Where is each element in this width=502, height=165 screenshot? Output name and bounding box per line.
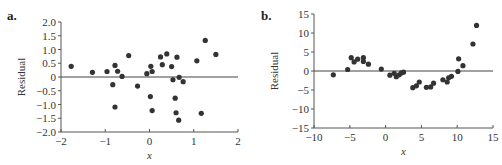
data-point (213, 52, 218, 57)
y-axis-title: Residual (268, 52, 280, 91)
data-point (199, 111, 204, 116)
data-point (164, 51, 169, 56)
y-tick-label: −0.5 (36, 85, 56, 97)
scatter-plot-a: 2.01.51.00.50−0.5−1.0−1.5−2.0−2−1012xRes… (0, 0, 250, 165)
data-point (150, 69, 155, 74)
y-tick-label: 2.0 (42, 16, 56, 28)
y-tick-label: −2.0 (36, 126, 56, 138)
data-point (160, 62, 165, 67)
y-tick-label: 0.5 (42, 57, 56, 69)
data-point (144, 71, 149, 76)
data-point (170, 77, 175, 82)
residual-plot-a: a. 2.01.51.00.50−0.5−1.0−1.5−2.0−2−1012x… (0, 0, 250, 165)
x-tick-label: 0 (383, 131, 389, 143)
data-point (456, 56, 461, 61)
x-axis-title: x (146, 149, 152, 161)
data-point (158, 54, 163, 59)
data-point (119, 74, 124, 79)
data-point (148, 94, 153, 99)
data-point (90, 70, 95, 75)
y-tick-label: −5 (297, 84, 309, 96)
data-point (112, 104, 117, 109)
data-point (115, 69, 120, 74)
x-tick-label: 15 (488, 131, 500, 143)
data-point (474, 23, 479, 28)
y-tick-label: 10 (298, 27, 310, 39)
y-tick-label: −10 (292, 103, 310, 115)
data-point (203, 38, 208, 43)
data-point (169, 64, 174, 69)
data-point (366, 62, 371, 67)
x-tick-label: 10 (452, 131, 464, 143)
data-point (112, 63, 117, 68)
data-point (148, 64, 153, 69)
x-tick-label: −1 (99, 135, 111, 147)
y-tick-label: 1.5 (42, 30, 56, 42)
data-point (150, 108, 155, 113)
data-point (431, 81, 436, 86)
y-tick-label: 0 (51, 71, 57, 83)
y-tick-label: −1.0 (36, 99, 56, 111)
data-point (177, 75, 182, 80)
y-tick-label: −1.5 (36, 112, 56, 124)
data-point (449, 74, 454, 79)
x-tick-label: 0 (147, 135, 153, 147)
x-tick-label: 5 (419, 131, 425, 143)
residual-plot-b: b. 151050−5−10−15−10−5051015xResidual (250, 0, 502, 165)
x-tick-label: 1 (191, 135, 197, 147)
x-tick-label: −5 (344, 131, 356, 143)
data-point (110, 82, 115, 87)
data-point (173, 110, 178, 115)
data-point (69, 64, 74, 69)
y-tick-label: 15 (298, 8, 310, 20)
data-point (361, 59, 366, 64)
y-tick-label: 5 (304, 46, 310, 58)
x-tick-label: −2 (55, 135, 67, 147)
scatter-plot-b: 151050−5−10−15−10−5051015xResidual (250, 0, 502, 165)
data-point (379, 67, 384, 72)
data-point (135, 83, 140, 88)
y-tick-label: 1.0 (42, 44, 56, 56)
data-point (401, 70, 406, 75)
y-tick-label: 0 (304, 65, 310, 77)
data-point (355, 57, 360, 62)
data-point (173, 96, 178, 101)
data-point (126, 53, 131, 58)
data-point (174, 55, 179, 60)
x-tick-label: 2 (235, 135, 241, 147)
x-tick-label: −10 (305, 131, 323, 143)
y-axis-title: Residual (15, 58, 27, 97)
data-point (181, 79, 186, 84)
data-point (104, 69, 109, 74)
data-point (345, 67, 350, 72)
data-point (176, 118, 181, 123)
data-point (194, 58, 199, 63)
data-point (455, 69, 460, 74)
data-point (331, 72, 336, 77)
data-point (417, 79, 422, 84)
data-point (470, 41, 475, 46)
x-axis-title: x (400, 145, 406, 157)
data-point (460, 63, 465, 68)
